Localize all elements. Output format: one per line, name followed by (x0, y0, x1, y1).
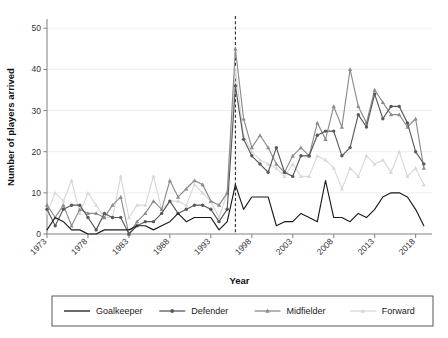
marker-point (70, 203, 73, 206)
x-tick-label-1978: 1978 (69, 236, 90, 257)
legend-label-defender: Defender (191, 306, 228, 316)
marker-point (357, 113, 360, 116)
marker-point (307, 154, 310, 157)
marker-point (86, 216, 89, 219)
marker-point (201, 203, 204, 206)
y-tick-label-10: 10 (32, 188, 42, 198)
legend-label-midfielder: Midfielder (287, 306, 326, 316)
marker-point (119, 174, 123, 178)
marker-point (422, 162, 425, 165)
marker-point (192, 183, 196, 187)
marker-point (299, 145, 303, 149)
marker-point (389, 105, 392, 108)
marker-point (398, 105, 401, 108)
marker-point (151, 199, 155, 203)
marker-point (414, 150, 417, 153)
x-tick-label-1988: 1988 (151, 236, 172, 257)
marker-point (274, 162, 278, 166)
marker-point (103, 212, 106, 215)
gridlines (47, 28, 432, 234)
y-tick-label-40: 40 (32, 64, 42, 74)
marker-point (209, 208, 212, 211)
marker-point (241, 117, 245, 121)
marker-point (111, 216, 114, 219)
marker-point (119, 216, 122, 219)
marker-point (315, 121, 319, 125)
x-tick-label-2008: 2008 (315, 236, 336, 257)
marker-point (332, 129, 335, 132)
marker-point (127, 232, 130, 235)
marker-point (406, 121, 409, 124)
marker-point (151, 174, 155, 178)
marker-point (168, 178, 172, 182)
x-tick-label-2003: 2003 (274, 236, 295, 257)
x-tick-label-2013: 2013 (356, 236, 377, 257)
chart-figure: 0102030405019731978198319881993199820032… (0, 0, 448, 338)
marker-point (61, 203, 65, 207)
marker-point (332, 104, 336, 108)
marker-point (364, 154, 368, 158)
marker-point (324, 129, 327, 132)
marker-point (226, 208, 229, 211)
legend-label-forward: Forward (382, 306, 415, 316)
legend-marker-circle-icon (170, 309, 174, 313)
marker-point (69, 178, 73, 182)
marker-point (185, 208, 188, 211)
marker-point (340, 154, 343, 157)
x-axis: 1973197819831988199319982003200820132018 (28, 234, 432, 257)
marker-point (340, 187, 344, 191)
marker-point (381, 117, 384, 120)
marker-point (414, 117, 418, 121)
marker-point (152, 220, 155, 223)
marker-point (233, 47, 237, 51)
marker-point (234, 84, 237, 87)
y-tick-label-20: 20 (32, 147, 42, 157)
marker-point (119, 195, 123, 199)
y-axis-title: Number of players arrived (5, 68, 16, 186)
marker-point (94, 228, 97, 231)
marker-point (217, 220, 220, 223)
x-tick-label-1993: 1993 (192, 236, 213, 257)
marker-point (373, 92, 376, 95)
series-line-defender (47, 86, 424, 234)
x-tick-label-1998: 1998 (233, 236, 254, 257)
marker-point (258, 133, 262, 137)
marker-point (422, 183, 426, 187)
marker-point (250, 154, 253, 157)
marker-point (69, 224, 73, 228)
x-tick-label-1983: 1983 (110, 236, 131, 257)
marker-point (422, 166, 426, 170)
marker-point (45, 203, 49, 207)
y-tick-label-30: 30 (32, 106, 42, 116)
x-tick-label-2018: 2018 (397, 236, 418, 257)
marker-point (348, 166, 352, 170)
marker-point (356, 104, 360, 108)
x-tick-label-1973: 1973 (28, 236, 49, 257)
marker-point (53, 224, 56, 227)
marker-point (45, 208, 48, 211)
legend-label-goalkeeper: Goalkeeper (96, 306, 143, 316)
marker-point (192, 178, 196, 182)
marker-point (193, 203, 196, 206)
marker-point (365, 125, 368, 128)
marker-point (340, 125, 344, 129)
marker-point (299, 154, 302, 157)
marker-point (168, 199, 171, 202)
marker-point (266, 171, 269, 174)
y-axis: 01020304050 (32, 19, 47, 239)
marker-point (291, 162, 295, 166)
marker-point (275, 146, 278, 149)
marker-point (62, 208, 65, 211)
marker-point (144, 220, 147, 223)
marker-point (160, 212, 163, 215)
marker-point (258, 162, 261, 165)
marker-point (291, 175, 294, 178)
marker-point (373, 88, 377, 92)
marker-point (283, 171, 286, 174)
marker-point (315, 154, 319, 158)
marker-point (316, 134, 319, 137)
marker-point (242, 138, 245, 141)
chart-svg: 0102030405019731978198319881993199820032… (0, 0, 448, 338)
marker-point (323, 137, 327, 141)
marker-point (414, 166, 418, 170)
